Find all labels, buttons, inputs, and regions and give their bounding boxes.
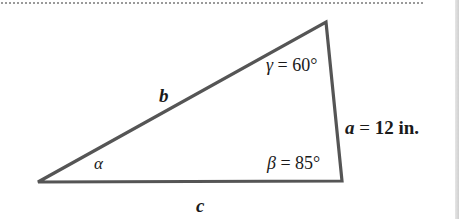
beta-value: = 85° xyxy=(276,153,320,173)
side-c-label: c xyxy=(196,195,204,217)
triangle-shape xyxy=(0,0,459,219)
triangle-diagram: γ = 60° b a = 12 in. α β = 85° c xyxy=(0,0,459,219)
angle-gamma-label: γ = 60° xyxy=(266,55,317,76)
side-a-value: 12 in. xyxy=(375,117,419,138)
beta-symbol: β xyxy=(267,153,276,173)
side-a-name: a xyxy=(345,117,355,138)
angle-beta-label: β = 85° xyxy=(267,153,320,174)
side-a-label: a = 12 in. xyxy=(345,117,419,139)
side-b-label: b xyxy=(159,85,169,107)
gamma-value: = 60° xyxy=(273,55,317,75)
angle-alpha-label: α xyxy=(94,154,103,174)
side-a-equals: = xyxy=(355,117,375,138)
